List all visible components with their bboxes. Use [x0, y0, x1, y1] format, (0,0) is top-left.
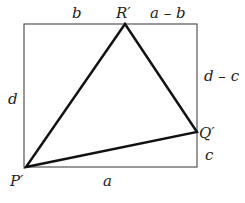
triangle-pqr	[26, 24, 197, 167]
label-c: c	[205, 146, 214, 164]
label-p-prime: P′	[9, 172, 24, 190]
label-q-prime: Q′	[199, 124, 215, 142]
label-d-minus-c: d – c	[204, 67, 240, 85]
label-d: d	[8, 90, 18, 108]
label-b: b	[72, 4, 82, 22]
label-a-minus-b: a – b	[150, 4, 186, 22]
label-r-prime: R′	[115, 4, 131, 22]
label-a: a	[103, 172, 112, 190]
geometry-diagram: b R′ a – b d d – c Q′ c P′ a	[0, 0, 245, 203]
